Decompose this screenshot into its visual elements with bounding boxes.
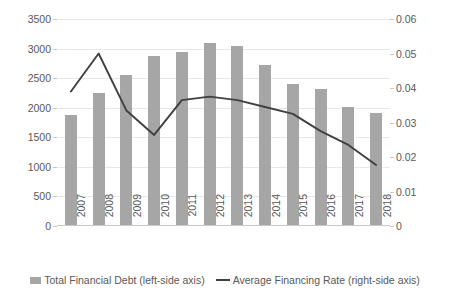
chart-legend: Total Financial Debt (left-side axis) Av…	[0, 270, 450, 290]
right-axis-tick-mark	[390, 88, 394, 89]
financial-debt-and-financing-rate-chart: 0500100015002000250030003500 00.010.020.…	[0, 0, 450, 294]
right-axis-tick-label: 0.03	[396, 118, 416, 129]
category-axis-tick-label: 2007	[76, 194, 87, 230]
left-axis-tick-label: 3000	[28, 44, 51, 55]
category-axis-tick-label: 2015	[298, 194, 309, 230]
right-axis-tick-mark	[390, 19, 394, 20]
category-axis-tick-label: 2009	[132, 194, 143, 230]
category-axis-tick-label: 2017	[354, 194, 365, 230]
right-axis-tick-mark	[390, 54, 394, 55]
right-axis-tick-mark	[390, 192, 394, 193]
category-axis-tick-label: 2012	[215, 194, 226, 230]
category-axis-tick-label: 2008	[104, 194, 115, 230]
category-axis-tick-label: 2018	[382, 194, 393, 230]
left-axis-tick-label: 1000	[28, 162, 51, 173]
category-axis-tick-label: 2010	[160, 194, 171, 230]
left-value-axis: 0500100015002000250030003500	[0, 0, 51, 294]
right-axis-tick-mark	[390, 123, 394, 124]
right-axis-tick-label: 0.05	[396, 49, 416, 60]
right-axis-tick-label: 0.01	[396, 187, 416, 198]
right-axis-tick-label: 0.04	[396, 83, 416, 94]
bar-swatch-icon	[30, 277, 41, 284]
legend-item-total-financial-debt: Total Financial Debt (left-side axis)	[30, 274, 204, 286]
category-axis-tick-label: 2016	[326, 194, 337, 230]
category-axis-tick-label: 2011	[187, 194, 198, 230]
line-swatch-icon	[216, 279, 230, 281]
right-axis-tick-mark	[390, 157, 394, 158]
right-value-axis: 00.010.020.030.040.050.06	[396, 0, 448, 294]
legend-item-average-financing-rate: Average Financing Rate (right-side axis)	[216, 274, 420, 286]
left-axis-tick-label: 2500	[28, 73, 51, 84]
category-axis: 2007200820092010201120122013201420152016…	[57, 226, 390, 270]
right-axis-tick-label: 0	[396, 221, 402, 232]
right-axis-tick-label: 0.06	[396, 14, 416, 25]
legend-label-total-financial-debt: Total Financial Debt (left-side axis)	[44, 274, 204, 286]
left-axis-tick-label: 3500	[28, 14, 51, 25]
left-axis-tick-label: 2000	[28, 103, 51, 114]
category-axis-tick-label: 2013	[243, 194, 254, 230]
legend-label-average-financing-rate: Average Financing Rate (right-side axis)	[233, 274, 420, 286]
left-axis-tick-label: 0	[45, 221, 51, 232]
right-axis-tick-label: 0.02	[396, 152, 416, 163]
left-axis-tick-label: 500	[33, 191, 51, 202]
category-axis-tick-label: 2014	[271, 194, 282, 230]
left-axis-tick-label: 1500	[28, 132, 51, 143]
